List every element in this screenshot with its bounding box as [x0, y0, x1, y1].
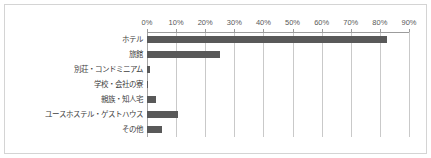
bar — [147, 126, 162, 133]
category-label: 親族・知人宅 — [101, 95, 143, 104]
x-tick-90 — [409, 29, 410, 32]
y-category-labels: ホテル旅館別荘・コンドミニアム学校・会社の寮親族・知人宅ユースホステル・ゲストハ… — [10, 32, 143, 137]
bar — [147, 96, 156, 103]
gridline-90 — [409, 32, 410, 137]
x-tick-label-80: 80% — [365, 18, 395, 27]
bar — [147, 66, 150, 73]
x-tick-label-30: 30% — [219, 18, 249, 27]
bar — [147, 51, 220, 58]
category-label: 別荘・コンドミニアム — [74, 65, 143, 74]
x-tick-label-70: 70% — [336, 18, 366, 27]
x-tick-label-10: 10% — [161, 18, 191, 27]
category-label: 学校・会社の寮 — [94, 80, 143, 89]
x-tick-label-90: 90% — [394, 18, 424, 27]
bar — [147, 81, 148, 88]
x-tick-label-40: 40% — [248, 18, 278, 27]
bar-chart: 0%10%20%30%40%50%60%70%80%90% ホテル旅館別荘・コン… — [0, 0, 431, 158]
category-label: ホテル — [122, 35, 143, 44]
category-label: 旅館 — [129, 50, 143, 59]
x-tick-label-60: 60% — [307, 18, 337, 27]
x-tick-label-0: 0% — [132, 18, 162, 27]
x-tick-label-50: 50% — [278, 18, 308, 27]
category-label: その他 — [122, 125, 143, 134]
bar — [147, 36, 387, 43]
bar — [147, 111, 178, 118]
category-label: ユースホステル・ゲストハウス — [45, 110, 143, 119]
chart-screenshot: 0%10%20%30%40%50%60%70%80%90% ホテル旅館別荘・コン… — [0, 0, 431, 158]
bar-series — [147, 32, 409, 137]
x-tick-label-20: 20% — [190, 18, 220, 27]
